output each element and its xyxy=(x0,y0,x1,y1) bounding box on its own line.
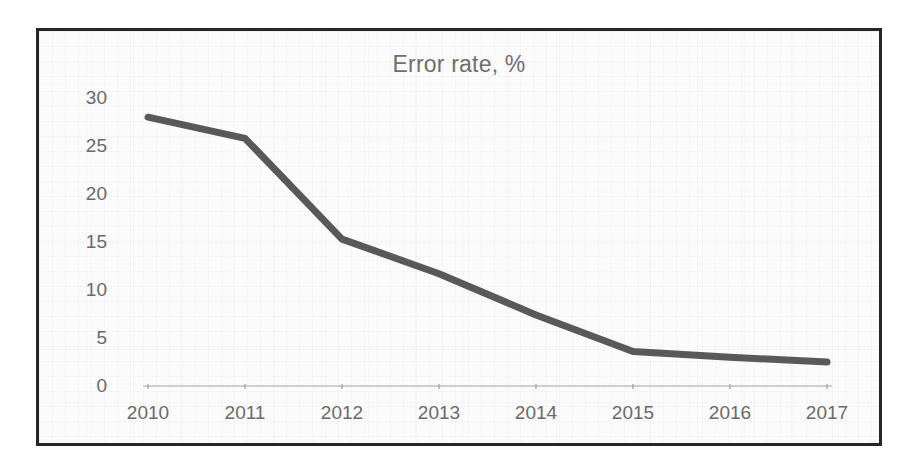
error-rate-line-series xyxy=(148,117,827,362)
plot-area: Error rate, % 051015202530 2010201120122… xyxy=(39,31,879,443)
series-line-chart xyxy=(39,31,885,449)
chart-figure: Error rate, % 051015202530 2010201120122… xyxy=(36,28,882,446)
